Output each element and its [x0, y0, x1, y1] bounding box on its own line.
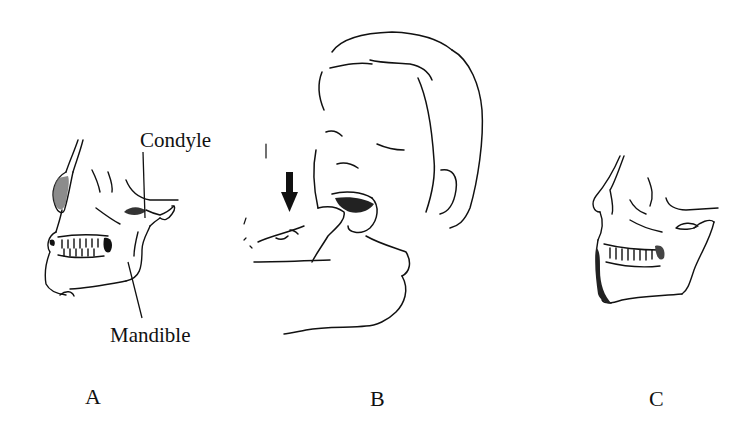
figure: Condyle Mandible A B C [0, 0, 752, 431]
condyle-label: Condyle [140, 130, 211, 151]
mandible-label: Mandible [110, 325, 190, 346]
panel-c-skull-drawing [0, 0, 752, 431]
panel-b-label: B [370, 388, 385, 410]
panel-a-label: A [85, 386, 101, 408]
panel-c-label: C [649, 388, 664, 410]
